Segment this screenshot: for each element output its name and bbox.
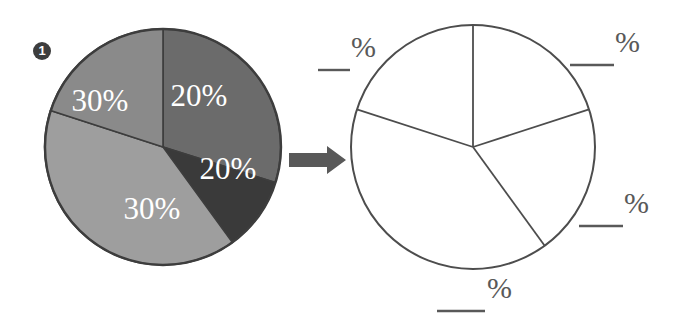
worksheet-figure: 20% 20% 30% 30% 1 %: [0, 0, 682, 324]
badge-number-label: 1: [38, 43, 45, 58]
filled-pie-chart: 20% 20% 30% 30%: [45, 29, 281, 265]
pie-label-30-left: 30%: [72, 83, 129, 118]
question-number-badge: 1: [33, 42, 51, 60]
blank-pie-chart: [351, 25, 595, 269]
pie-label-20-top-right: 20%: [171, 78, 228, 113]
answer-blank-top-right[interactable]: %: [570, 25, 640, 65]
answer-blank-bottom[interactable]: %: [437, 271, 512, 311]
arrow-right-icon: [289, 146, 346, 174]
arrow-right-glyph: [289, 146, 346, 174]
percent-symbol-top-right: %: [615, 25, 640, 58]
pie-label-20-right-dark: 20%: [200, 151, 257, 186]
pie-comparison-figure: 20% 20% 30% 30% 1 %: [0, 0, 682, 324]
pie-label-30-bottom: 30%: [124, 191, 181, 226]
answer-blank-top-left[interactable]: %: [318, 30, 376, 70]
percent-symbol-top-left: %: [351, 30, 376, 63]
percent-symbol-bottom: %: [487, 271, 512, 304]
answer-blank-right[interactable]: %: [579, 186, 649, 226]
percent-symbol-right: %: [624, 186, 649, 219]
